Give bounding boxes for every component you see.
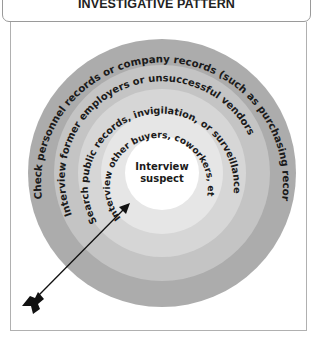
- target-diagram: Check personnel records or company recor…: [0, 0, 320, 339]
- center-label-line1: Interview: [135, 161, 188, 172]
- center-label-line2: suspect: [140, 173, 184, 184]
